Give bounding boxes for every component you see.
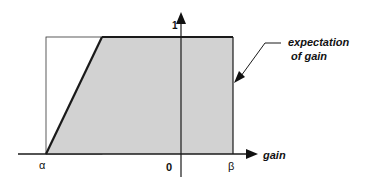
annotation-line2: of gain <box>291 50 327 62</box>
tick-beta: β <box>228 160 234 172</box>
y-axis-label: 1 <box>172 20 178 31</box>
annotation-leader <box>241 43 281 76</box>
x-axis-label: gain <box>263 149 286 161</box>
x-axis-arrow-icon <box>246 149 258 159</box>
gain-diagram <box>0 0 367 187</box>
tick-zero: 0 <box>166 161 172 173</box>
tick-alpha: α <box>39 159 45 171</box>
annotation-line1: expectation <box>288 36 349 48</box>
